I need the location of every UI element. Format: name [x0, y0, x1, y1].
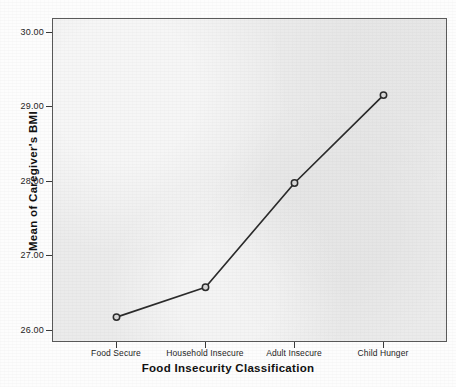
chart-page: 30.00 29.00 28.00 27.00 26.00 Food Secur… [0, 0, 456, 387]
data-point-marker [202, 284, 208, 290]
x-tick-label-food-secure: Food Secure [91, 348, 141, 358]
x-tick-label-child-hunger: Child Hunger [358, 348, 409, 358]
data-point-marker [380, 92, 386, 98]
series-polyline [117, 95, 384, 317]
x-axis-ticks [117, 342, 384, 348]
data-point-marker [291, 180, 297, 186]
y-tick-label: 26.00 [4, 325, 44, 335]
data-series-line [117, 95, 384, 317]
x-tick-label-adult-insecure: Adult Insecure [266, 348, 322, 358]
y-tick-label: 30.00 [4, 27, 44, 37]
y-axis-title: Mean of Caregiver's BMI [27, 66, 39, 296]
y-axis-ticks [46, 33, 52, 331]
data-point-markers [113, 92, 386, 320]
x-tick-label-household-insecure: Household Insecure [166, 348, 243, 358]
data-point-marker [113, 314, 119, 320]
x-axis-title: Food Insecurity Classification [0, 362, 456, 374]
chart-svg [0, 0, 456, 387]
